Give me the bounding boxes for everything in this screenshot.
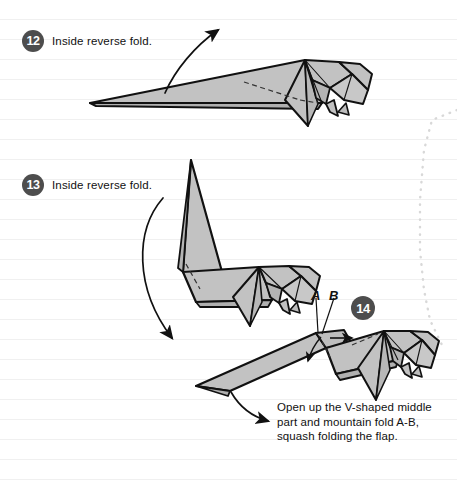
caption-line-2: part and mountain fold A-B, <box>277 415 432 430</box>
step-badge-12: 12 <box>22 30 44 52</box>
origami-figure-step-13 <box>178 160 320 326</box>
caption-pointer-arrow <box>231 392 268 421</box>
point-leader-lines <box>316 298 334 334</box>
step-label-12: Inside reverse fold. <box>52 35 152 47</box>
action-arrow-step-13 <box>143 198 172 338</box>
caption-line-3: squash folding the flap. <box>277 429 432 444</box>
point-label-a: A <box>311 288 320 303</box>
step-heading-12: 12 Inside reverse fold. <box>22 30 152 52</box>
step-label-13: Inside reverse fold. <box>52 179 152 191</box>
caption-line-1: Open up the V-shaped middle <box>277 400 432 415</box>
origami-instruction-page: 12 Inside reverse fold. 13 Inside revers… <box>0 0 457 481</box>
step-14-caption: Open up the V-shaped middle part and mou… <box>277 400 432 444</box>
step-badge-13: 13 <box>22 174 44 196</box>
step-badge-14: 14 <box>351 296 375 320</box>
point-label-b: B <box>329 288 338 303</box>
page-edge-dotted-line <box>420 110 457 345</box>
origami-figure-step-12 <box>90 60 372 126</box>
step-heading-13: 13 Inside reverse fold. <box>22 174 152 196</box>
